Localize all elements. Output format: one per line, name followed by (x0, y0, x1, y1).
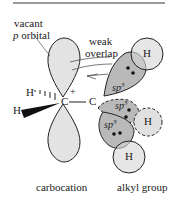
electron-dot (118, 131, 122, 135)
sp3-lower-label: sp3 (104, 117, 116, 130)
h-bottom-label: H (125, 151, 133, 162)
hashed-bond (35, 90, 55, 100)
overlap-label: overlap (85, 48, 118, 59)
electron-dot (131, 71, 135, 75)
h-left-lower-label: H (13, 105, 21, 116)
h-right-label: H (144, 116, 152, 127)
carbocation-caption: carbocation (36, 182, 87, 193)
h-top-label: H (143, 48, 151, 59)
electron-dot (126, 66, 130, 70)
positive-charge-label: + (70, 86, 76, 97)
alkyl-carbon-label: C (89, 96, 96, 107)
sp3-upper-label: sp3 (112, 80, 124, 93)
p-orbital-lower-lobe (48, 104, 80, 162)
alkyl-group-caption: alkyl group (117, 182, 167, 193)
weak-label: weak (89, 36, 112, 47)
vacant-label: vacant (14, 18, 43, 29)
h-left-upper-label: H (26, 87, 34, 98)
electron-dot (127, 108, 131, 112)
sp3-right-label: sp3 (115, 98, 127, 111)
electron-dot (112, 132, 116, 136)
carbocation-carbon-label: C (61, 96, 68, 107)
wedge-bond (21, 103, 60, 118)
p-orbital-label: p orbital (13, 30, 50, 41)
